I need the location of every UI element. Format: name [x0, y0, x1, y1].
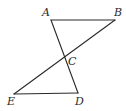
segment-be — [14, 20, 115, 94]
segment-ed — [14, 93, 78, 94]
label-d: D — [74, 95, 84, 108]
label-b: B — [113, 6, 122, 19]
geometry-diagram: A B C D E — [0, 0, 126, 111]
label-c: C — [68, 55, 77, 68]
label-e: E — [6, 95, 15, 108]
label-a: A — [41, 6, 50, 19]
